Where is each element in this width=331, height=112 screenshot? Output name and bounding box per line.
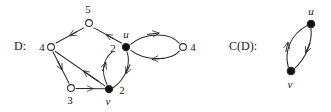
edge-v-to-4left-arrow: [84, 71, 100, 82]
edge-u-to-5-arrow: [106, 35, 114, 39]
cd-node-v[interactable]: [287, 67, 295, 75]
cd-node-label-u: u: [308, 6, 314, 17]
edge-5-to-4left-arrow: [70, 32, 78, 36]
graph-D-edges: [53, 28, 180, 89]
cd-edge-u-to-v-arrow: [306, 43, 310, 53]
node-5[interactable]: [86, 20, 93, 27]
edge-4left-to-3-arrow: [57, 60, 62, 70]
panel-label-D: D:: [14, 40, 26, 52]
node-4-left[interactable]: [48, 44, 55, 51]
node-3[interactable]: [68, 85, 75, 92]
node-label-4-right: 4: [190, 42, 196, 53]
edge-u-to-4right: [130, 35, 179, 45]
cd-node-u[interactable]: [307, 20, 315, 28]
cd-edge-u-to-v: [294, 28, 311, 68]
node-u[interactable]: [122, 43, 129, 50]
panel-label-CD: C(D):: [229, 40, 257, 52]
edge-v-to-u: [104, 52, 113, 85]
graph-CD-edges: [286, 25, 311, 68]
node-weight-v: 2: [119, 85, 125, 96]
node-weight-u: 2: [110, 43, 116, 54]
node-4-right[interactable]: [180, 44, 187, 51]
node-label-5: 5: [85, 4, 91, 15]
figure-canvas: D: C(D): 5 4 u 2 4 3 v 2 u v: [0, 0, 331, 112]
edge-4right-to-u: [131, 50, 180, 59]
edge-u-to-4right-arrow: [147, 33, 159, 34]
figure-vector-layer: [0, 0, 331, 112]
node-label-u: u: [123, 29, 129, 40]
node-label-v: v: [106, 96, 111, 107]
node-label-4-left: 4: [39, 42, 45, 53]
node-v[interactable]: [105, 85, 112, 92]
cd-edge-v-to-u: [287, 25, 307, 67]
cd-node-label-v: v: [288, 79, 293, 90]
node-label-3: 3: [67, 95, 73, 106]
